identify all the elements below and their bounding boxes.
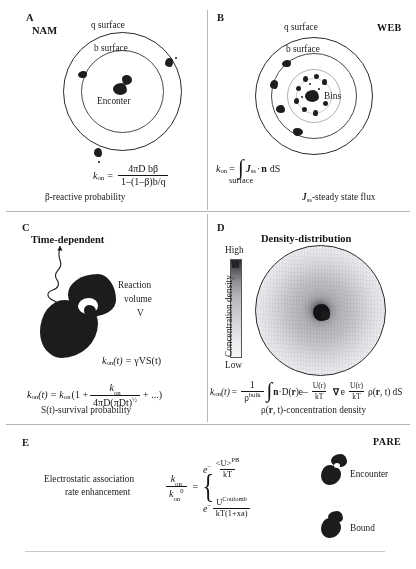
panel-b-caption-rest: -steady state flux: [312, 192, 376, 202]
eq-d-exp2-num: U(r): [347, 382, 366, 391]
eq-c2-denominator-sup: ½: [132, 396, 137, 403]
panel-b-equation: kon = ∫ Jss · n dS: [216, 163, 280, 175]
eq-c2-tail: + ...): [143, 389, 162, 400]
bin-dot-b-2: [318, 88, 320, 90]
divider-horizontal-bottom: [25, 551, 385, 552]
eq-d-equals: =: [232, 387, 237, 397]
central-blob-b: [305, 90, 319, 102]
eq-c2-prefix-sub: on: [64, 394, 71, 401]
panel-d-caption-post: , t)-concentration density: [273, 405, 366, 415]
q-surface-label-b: q surface: [284, 22, 318, 32]
eq-a-denominator: 1–(1–β)b/q: [118, 175, 169, 188]
eq-e-case1-den: kT: [220, 469, 235, 480]
eq-b-dot: ·: [257, 163, 260, 174]
reaction-volume-label-line2: volume: [124, 294, 152, 304]
eq-a-numerator: 4πD bβ: [125, 163, 161, 175]
eq-e-case1-fraction: <U>PB kT: [213, 459, 243, 480]
panel-c-equation-1: kon(t) = γVS(t): [102, 355, 161, 366]
eq-c1-arg: (t): [113, 355, 122, 366]
panel-d-title: Density-distribution: [261, 233, 351, 244]
eq-a-lhs-sub: on: [97, 174, 104, 181]
panel-b-label: B: [217, 12, 224, 23]
eq-c2-open: (1 +: [72, 389, 88, 400]
eq-e-case2-sign: –: [207, 501, 210, 508]
panel-d-caption: ρ(r, t)-concentration density: [261, 405, 366, 415]
eq-e-case1-sign: –: [207, 462, 210, 469]
panel-c-caption: S(t)-survival probability: [41, 405, 131, 415]
reaction-volume-label-line1: Reaction: [118, 280, 151, 290]
reaction-site-dot-c: [93, 312, 98, 317]
eq-d-exp2-base: e: [341, 387, 345, 397]
bound-blob-e-partner: [328, 511, 343, 523]
eq-e-case2-num-group: UCoulomb: [213, 498, 250, 508]
bins-label-b: Bins: [324, 91, 341, 101]
ligand-blob-b-3: [276, 105, 285, 113]
colorbar-axis-label: Concentration density: [224, 275, 234, 357]
pare-description-line1: Electrostatic association: [44, 474, 134, 484]
bin-blob-b-8: [323, 101, 328, 106]
pare-description-line2: rate enhancement: [65, 487, 130, 497]
b-surface-label-b: b surface: [286, 44, 320, 54]
eq-d-gradient: ∇: [333, 386, 339, 397]
eq-d-exp1-sign: –: [303, 387, 308, 397]
panel-e: E PARE Electrostatic association rate en…: [0, 425, 416, 551]
colorbar-low-label: Low: [225, 360, 242, 370]
bound-label-e: Bound: [350, 523, 375, 533]
panel-b-caption-symbol-sub: ss: [307, 196, 312, 203]
eq-c2-arg: (t): [38, 389, 47, 400]
eq-b-normal: n: [261, 163, 267, 174]
eq-d-measure: dS: [392, 387, 402, 397]
panel-c-label: C: [22, 222, 30, 233]
panel-a-equation: kon = 4πD bβ 1–(1–β)b/q: [93, 163, 170, 187]
eq-d-arg: (t): [221, 387, 230, 397]
q-surface-label-a: q surface: [91, 20, 125, 30]
eq-e-ratio-den-sub: on: [173, 495, 180, 503]
eq-e-case2-den: kT(1+xa): [213, 508, 251, 519]
eq-c2-numerator-sub: on: [114, 389, 121, 397]
panel-c: C Time-dependent Reaction volume V kon(t…: [0, 212, 207, 424]
panel-e-label: E: [22, 437, 29, 448]
eq-e-case1-num-group: <U>PB: [213, 459, 243, 469]
eq-c2-lhs-sub: on: [31, 394, 38, 401]
eq-c2-fraction: kon 4πD(πDt)½: [90, 382, 140, 408]
bin-dot-b-1: [309, 83, 311, 85]
eq-e-case2-num-sup: Coulomb: [222, 495, 247, 502]
eq-b-flux-sub: ss: [251, 168, 256, 175]
panel-b: B WEB q surface b surface Bins kon: [208, 0, 416, 211]
ligand-blob-b-1: [282, 60, 291, 67]
eq-d-integral: ∫: [267, 385, 273, 397]
panel-d: D Density-distribution High Low Concentr…: [208, 212, 416, 424]
ligand-dot-a-2: [175, 57, 177, 59]
eq-c1-lhs-sub: on: [106, 359, 113, 366]
colorbar-high-label: High: [225, 245, 244, 255]
eq-d-rho-t: , t): [380, 387, 390, 397]
eq-d-prefactor-den-sup: bulk: [249, 391, 261, 398]
eq-d-exp1-den: kT: [312, 391, 326, 401]
eq-e-equals: =: [193, 481, 199, 492]
bin-blob-b-4: [296, 86, 301, 91]
colorbar-top-swatch: [232, 261, 239, 268]
bin-blob-b-5: [294, 98, 299, 104]
eq-d-exp2-den: kT: [349, 391, 363, 401]
ligand-blob-a-2: [165, 58, 173, 67]
ligand-blob-a-3: [94, 148, 102, 157]
bin-blob-b-1: [303, 76, 308, 82]
eq-d-diff: D(: [282, 387, 292, 397]
figure-root: A NAM q surface b surface Enconter kon =…: [0, 0, 416, 569]
eq-e-ratio-fraction: kon kon0: [166, 473, 187, 500]
eq-e-case1-num-sup: PB: [231, 456, 239, 463]
reaction-volume-label-line3: V: [137, 308, 144, 318]
panel-d-label: D: [217, 222, 225, 233]
bin-blob-b-3: [322, 79, 327, 85]
b-surface-label-a: b surface: [94, 43, 128, 53]
panel-e-corner-tag: PARE: [373, 436, 401, 447]
bin-blob-b-7: [313, 110, 318, 116]
eq-c1-rhs: γVS(t): [134, 355, 161, 366]
panel-d-equation: kon(t) = 1 ρbulk ∫ n·D(r)e– U(r) kT ∇ e …: [210, 380, 402, 403]
eq-b-integral: ∫: [238, 162, 244, 174]
eq-e-ratio-den-group: kon0: [166, 486, 187, 500]
eq-b-integral-domain: surface: [229, 176, 253, 185]
bin-dot-b-3: [301, 96, 303, 98]
eq-c1-equals: =: [126, 355, 132, 366]
panel-e-case-2: e– UCoulomb kT(1+xa): [203, 498, 252, 519]
